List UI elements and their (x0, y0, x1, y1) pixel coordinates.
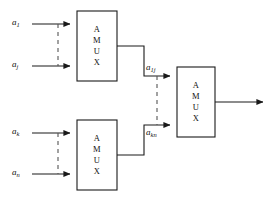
link-bottom-left-to-right (117, 125, 170, 155)
amux-tree-diagram: A M U X A M U X A M U X a1 aj ak an a1j … (0, 0, 275, 202)
signal-label-aj-sub: j (17, 63, 19, 70)
link-top-left-to-right (117, 46, 170, 76)
signal-label-aj-base: a (12, 59, 17, 69)
signal-label-akn-sub: kn (151, 131, 157, 138)
signal-label-a1j-sub: 1j (151, 66, 156, 73)
signal-label-an-sub: n (17, 171, 20, 178)
signal-label-a1-sub: 1 (17, 21, 20, 28)
signal-label-akn-base: a (146, 127, 151, 137)
signal-label-a1: a1 (12, 17, 20, 27)
signal-label-aj: aj (12, 59, 18, 69)
signal-label-an-base: a (12, 167, 17, 177)
signal-label-ak-sub: k (17, 130, 20, 137)
signal-label-a1-base: a (12, 17, 17, 27)
amux-right-label: A M U X (177, 80, 215, 124)
signal-label-a1j: a1j (146, 62, 156, 72)
signal-label-akn: akn (146, 127, 157, 137)
amux-bottom-left-label: A M U X (77, 133, 117, 177)
diagram-canvas (0, 0, 275, 202)
signal-label-ak-base: a (12, 126, 17, 136)
signal-label-an: an (12, 167, 20, 177)
amux-top-left-label: A M U X (77, 24, 117, 68)
signal-label-ak: ak (12, 126, 19, 136)
signal-label-a1j-base: a (146, 62, 151, 72)
